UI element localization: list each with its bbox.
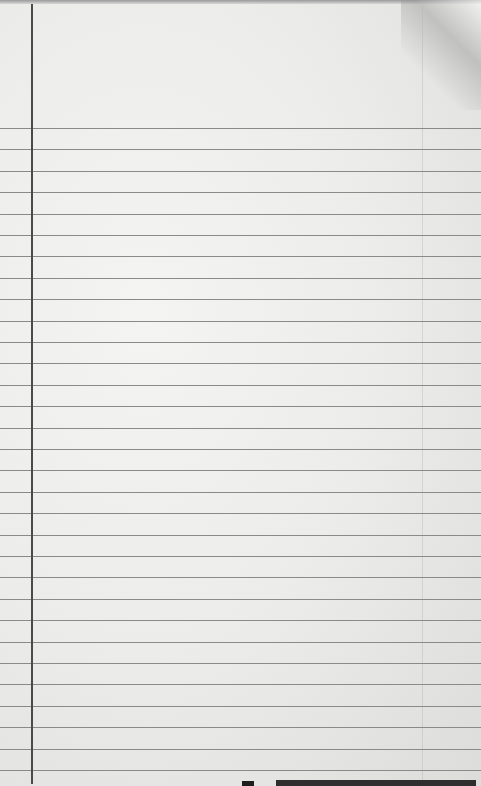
corner-shadow <box>401 0 481 110</box>
ruled-line <box>0 535 481 536</box>
ruled-line <box>0 727 481 728</box>
ruled-line <box>0 256 481 257</box>
ruled-line <box>0 406 481 407</box>
ruled-line <box>0 342 481 343</box>
faint-right-margin <box>422 0 423 786</box>
dark-bottom-mark <box>242 781 254 786</box>
ruled-line <box>0 556 481 557</box>
dark-bottom-strip <box>276 780 476 786</box>
ruled-line <box>0 684 481 685</box>
ruled-line <box>0 770 481 771</box>
ruled-line <box>0 299 481 300</box>
ruled-line <box>0 214 481 215</box>
ruled-line <box>0 149 481 150</box>
ruled-line <box>0 599 481 600</box>
ruled-line <box>0 363 481 364</box>
ruled-line <box>0 663 481 664</box>
ruled-line <box>0 706 481 707</box>
ruled-line <box>0 577 481 578</box>
ruled-line <box>0 749 481 750</box>
margin-line <box>31 4 33 784</box>
lined-paper <box>0 0 481 786</box>
ruled-line <box>0 128 481 129</box>
ruled-line <box>0 449 481 450</box>
ruled-line <box>0 492 481 493</box>
ruled-line <box>0 385 481 386</box>
ruled-line <box>0 321 481 322</box>
ruled-line <box>0 192 481 193</box>
ruled-line <box>0 171 481 172</box>
ruled-line <box>0 642 481 643</box>
ruled-line <box>0 235 481 236</box>
ruled-line <box>0 278 481 279</box>
ruled-line <box>0 470 481 471</box>
ruled-line <box>0 428 481 429</box>
ruled-line <box>0 513 481 514</box>
ruled-line <box>0 620 481 621</box>
